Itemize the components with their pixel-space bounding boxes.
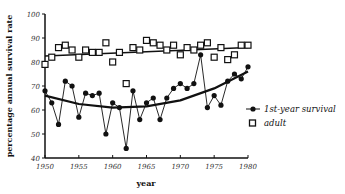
x-tick-label: 1965 <box>138 163 156 171</box>
data-point <box>218 45 224 51</box>
data-point <box>49 54 55 60</box>
data-point <box>171 42 177 48</box>
data-point <box>89 49 95 55</box>
data-point <box>239 76 244 81</box>
y-tick-label: 100 <box>27 11 41 19</box>
data-point <box>225 79 230 84</box>
legend-item-adult: adult <box>250 118 287 128</box>
x-tick-label: 1980 <box>239 163 257 171</box>
data-point <box>83 47 89 53</box>
data-point <box>63 79 68 84</box>
data-point <box>96 49 102 55</box>
y-axis: 405060708090100 <box>27 11 45 163</box>
x-tick-label: 1970 <box>171 163 189 171</box>
data-point <box>164 47 170 53</box>
series-open-square <box>42 37 251 86</box>
data-point <box>144 37 150 43</box>
data-point <box>177 52 183 58</box>
data-point <box>150 40 156 46</box>
x-axis-title: year <box>135 178 156 188</box>
data-point <box>238 42 244 48</box>
data-point <box>69 83 74 88</box>
data-point <box>171 86 176 91</box>
data-point <box>157 42 163 48</box>
data-point <box>110 100 115 105</box>
y-tick-label: 60 <box>31 107 40 115</box>
open-square-icon <box>250 120 256 126</box>
x-tick-label: 1960 <box>104 163 122 171</box>
legend-item-first-year: 1st-year survival <box>246 104 336 114</box>
data-point <box>117 105 122 110</box>
data-point <box>42 88 47 93</box>
y-tick-label: 50 <box>31 131 40 139</box>
legend-label-adult: adult <box>264 118 287 128</box>
data-point <box>245 64 250 69</box>
data-point <box>62 42 68 48</box>
data-point <box>42 61 48 67</box>
x-tick-label: 1950 <box>36 163 54 171</box>
data-point <box>184 45 190 51</box>
data-point <box>97 91 102 96</box>
data-point <box>191 81 196 86</box>
data-point <box>185 86 190 91</box>
y-axis-title: percentage annual survival rate <box>4 15 14 158</box>
data-point <box>157 117 162 122</box>
data-point <box>204 40 210 46</box>
data-point <box>123 81 129 87</box>
legend-label-first-year: 1st-year survival <box>264 104 336 114</box>
data-point <box>90 93 95 98</box>
data-point <box>137 117 142 122</box>
data-point <box>49 100 54 105</box>
data-point <box>218 103 223 108</box>
data-point <box>164 95 169 100</box>
data-point <box>76 54 82 60</box>
filled-circle-icon <box>250 106 255 111</box>
y-tick-label: 90 <box>31 35 40 43</box>
data-point <box>69 47 75 53</box>
data-point <box>151 95 156 100</box>
x-tick-label: 1975 <box>205 163 223 171</box>
data-point <box>103 131 108 136</box>
y-tick-label: 70 <box>31 83 40 91</box>
data-point <box>225 57 231 63</box>
data-point <box>178 81 183 86</box>
data-point <box>103 40 109 46</box>
x-tick-label: 1955 <box>70 163 88 171</box>
data-point <box>76 115 81 120</box>
data-point <box>191 47 197 53</box>
data-point <box>56 122 61 127</box>
data-point <box>56 45 62 51</box>
data-point <box>130 45 136 51</box>
data-point <box>198 52 203 57</box>
data-point <box>205 105 210 110</box>
data-point <box>110 59 116 65</box>
data-point <box>137 47 143 53</box>
data-point <box>198 42 204 48</box>
x-axis: 1950195519601965197019751980 <box>36 155 257 171</box>
data-point <box>130 88 135 93</box>
data-point <box>212 93 217 98</box>
data-point <box>144 100 149 105</box>
data-point <box>124 146 129 151</box>
legend: 1st-year survival adult <box>246 104 336 128</box>
y-tick-label: 80 <box>31 59 40 67</box>
data-point <box>116 49 122 55</box>
data-point <box>83 91 88 96</box>
data-point <box>232 71 237 76</box>
data-point <box>211 54 217 60</box>
y-tick-label: 40 <box>30 155 40 163</box>
survival-rate-chart: 405060708090100 195019551960196519701975… <box>0 0 345 194</box>
data-point <box>231 52 237 58</box>
data-point <box>245 42 251 48</box>
